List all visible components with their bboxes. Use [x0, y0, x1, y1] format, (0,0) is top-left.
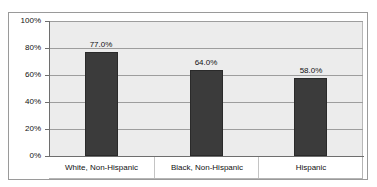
y-axis-tick-label: 0%: [9, 152, 41, 160]
x-axis-category-label: Hispanic: [296, 164, 327, 172]
bar: [294, 78, 327, 156]
x-axis-category-band: White, Non-HispanicBlack, Non-HispanicHi…: [49, 157, 363, 179]
x-axis-category-cell: Hispanic: [258, 157, 363, 178]
y-axis-tick-label: 40%: [9, 98, 41, 106]
x-axis-category-label: Black, Non-Hispanic: [171, 164, 243, 172]
bar-value-label: 77.0%: [73, 41, 129, 49]
y-axis-tick-label: 60%: [9, 71, 41, 79]
x-axis-category-cell: White, Non-Hispanic: [49, 157, 154, 178]
bar: [190, 70, 223, 156]
y-axis-tick-label: 100%: [9, 17, 41, 25]
x-axis-category-cell: Black, Non-Hispanic: [154, 157, 259, 178]
bar-value-label: 64.0%: [178, 59, 234, 67]
y-axis-line: [49, 21, 50, 157]
bar: [85, 52, 118, 156]
x-axis-category-label: White, Non-Hispanic: [65, 164, 138, 172]
y-axis-tick-label: 20%: [9, 125, 41, 133]
chart-frame: 0%20%40%60%80%100% 77.0%64.0%58.0% White…: [8, 12, 368, 180]
gridline: [49, 21, 363, 22]
y-axis-tick-label: 80%: [9, 44, 41, 52]
bar-value-label: 58.0%: [283, 67, 339, 75]
